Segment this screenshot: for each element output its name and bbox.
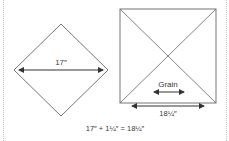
right-dotted-border xyxy=(226,0,227,141)
formula-text: 17″ + 1¼″ = 18¼″ xyxy=(86,124,145,133)
diagram-svg: 17″ Grain 18¼″ 17″ + 1¼″ = 18¼″ xyxy=(0,0,229,141)
square-shape: Grain 18¼″ xyxy=(120,9,216,118)
left-dotted-border xyxy=(3,0,4,141)
grain-label: Grain xyxy=(158,80,178,89)
diamond-measurement-label: 17″ xyxy=(55,58,67,67)
diagram-canvas: 17″ Grain 18¼″ 17″ + 1¼″ = 18¼″ xyxy=(0,0,229,141)
diamond-shape: 17″ xyxy=(14,24,108,116)
square-measurement-label: 18¼″ xyxy=(159,109,177,118)
